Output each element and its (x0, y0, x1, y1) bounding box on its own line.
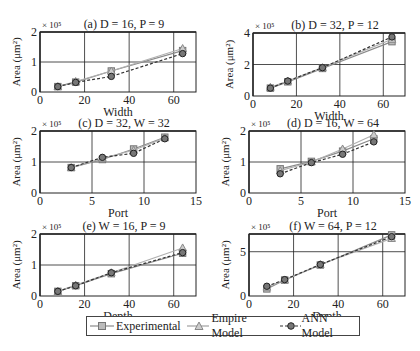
x-tick-label: 0 (250, 97, 256, 111)
chart-title: (a) D = 16, P = 9 (84, 17, 165, 31)
chart-title: (e) W = 16, P = 9 (83, 219, 166, 233)
circle-marker-icon (285, 78, 291, 84)
x-tick-label: 15 (190, 194, 202, 208)
x-tick-label: 60 (377, 97, 389, 111)
circle-marker-icon (99, 154, 105, 160)
legend-label-ann: ANN Model (302, 311, 359, 341)
circle-marker-icon (68, 164, 74, 170)
circle-marker-icon (179, 249, 185, 255)
circle-marker-icon (371, 139, 377, 145)
y-tick-label: 0 (240, 186, 246, 200)
circle-marker-icon (130, 150, 136, 156)
chart-panel-f: 020406005× 10⁵(f) W = 64, P = 12DepthAre… (219, 219, 405, 323)
circle-marker-icon (308, 159, 314, 165)
x-tick-label: 0 (37, 297, 43, 311)
circle-marker-icon (264, 283, 270, 289)
y-tick-label: 2 (244, 58, 250, 72)
circle-marker-icon (319, 64, 325, 70)
circle-marker-icon (179, 50, 185, 56)
y-tick-label: 5 (240, 245, 246, 259)
x-tick-label: 5 (89, 194, 95, 208)
y-axis-label: Area (μm²) (10, 37, 23, 87)
x-tick-label: 10 (138, 194, 150, 208)
y-tick-label: 0 (31, 186, 37, 200)
triangle-marker-icon (187, 321, 210, 331)
circle-marker-icon (281, 276, 287, 282)
x-tick-label: 0 (37, 93, 43, 107)
y-tick-label: 0 (31, 289, 37, 303)
square-marker-icon (90, 321, 114, 331)
x-axis-label: Port (108, 206, 129, 220)
y-tick-label: 2 (31, 25, 37, 39)
y-tick-label: 2 (31, 227, 37, 241)
y-axis-label: Area (μm²) (219, 137, 232, 187)
chart-title: (c) D = 32, W = 32 (78, 116, 169, 130)
circle-marker-icon (317, 261, 323, 267)
y-multiplier: × 10⁵ (42, 119, 61, 129)
x-tick-label: 20 (79, 93, 91, 107)
y-multiplier: × 10⁵ (42, 222, 61, 232)
circle-marker-icon (280, 321, 301, 331)
x-tick-label: 10 (347, 194, 359, 208)
y-axis-label: Area (μm²) (10, 137, 23, 187)
circle-marker-icon (72, 283, 78, 289)
legend-item-empire: Empire Model (187, 311, 278, 341)
y-tick-label: 0 (244, 89, 250, 103)
x-tick-label: 15 (399, 194, 411, 208)
figure-canvas: 0204060012× 10⁵(a) D = 16, P = 9WidthAre… (0, 0, 420, 351)
circle-marker-icon (162, 136, 168, 142)
y-multiplier: × 10⁵ (251, 222, 270, 232)
chart-panel-c: 051015012× 10⁵(c) D = 32, W = 32PortArea… (10, 116, 202, 220)
y-multiplier: × 10⁵ (255, 21, 274, 31)
y-tick-label: 2 (240, 124, 246, 138)
circle-marker-icon (108, 73, 114, 79)
y-axis-label: Area (μm²) (219, 240, 232, 290)
legend-item-ann: ANN Model (280, 311, 359, 341)
y-tick-label: 1 (240, 155, 246, 169)
y-tick-label: 2 (31, 124, 37, 138)
chart-panel-e: 0204060012× 10⁵(e) W = 16, P = 9DepthAre… (10, 219, 196, 323)
y-multiplier: × 10⁵ (251, 119, 270, 129)
chart-panel-d: 051015012× 10⁵(d) D = 16, W = 64PortArea… (219, 116, 411, 220)
x-axis-label: Port (317, 206, 338, 220)
y-tick-label: 1 (31, 55, 37, 69)
chart-panel-b: 0204060024× 10⁵(b) D = 32, P = 12WidthAr… (223, 18, 405, 123)
x-tick-label: 0 (246, 297, 252, 311)
x-tick-label: 60 (168, 297, 180, 311)
x-tick-label: 5 (298, 194, 304, 208)
x-tick-label: 60 (168, 93, 180, 107)
circle-marker-icon (55, 288, 61, 294)
chart-title: (f) W = 64, P = 12 (289, 219, 377, 233)
circle-marker-icon (388, 233, 394, 239)
legend: Experimental Empire Model ANN Model (86, 316, 360, 336)
circle-marker-icon (389, 34, 395, 40)
y-tick-label: 0 (240, 289, 246, 303)
legend-label-experimental: Experimental (116, 319, 181, 334)
chart-title: (d) D = 16, W = 64 (287, 116, 379, 130)
y-tick-label: 1 (31, 155, 37, 169)
circle-marker-icon (267, 85, 273, 91)
x-tick-label: 20 (288, 297, 300, 311)
x-tick-label: 20 (290, 97, 302, 111)
legend-item-experimental: Experimental (90, 319, 181, 334)
legend-label-empire: Empire Model (211, 311, 277, 341)
y-axis-label: Area (μm²) (10, 240, 23, 290)
y-axis-label: Area (μm²) (223, 40, 236, 90)
circle-marker-icon (108, 270, 114, 276)
chart-panel-a: 0204060012× 10⁵(a) D = 16, P = 9WidthAre… (10, 17, 196, 119)
y-multiplier: × 10⁵ (42, 20, 61, 30)
y-tick-label: 0 (31, 85, 37, 99)
y-tick-label: 1 (31, 258, 37, 272)
x-tick-label: 0 (37, 194, 43, 208)
circle-marker-icon (277, 171, 283, 177)
x-tick-label: 20 (79, 297, 91, 311)
circle-marker-icon (72, 79, 78, 85)
x-tick-label: 60 (377, 297, 389, 311)
chart-title: (b) D = 32, P = 12 (291, 18, 378, 32)
circle-marker-icon (55, 83, 61, 89)
y-tick-label: 4 (244, 26, 250, 40)
circle-marker-icon (339, 151, 345, 157)
x-tick-label: 0 (246, 194, 252, 208)
